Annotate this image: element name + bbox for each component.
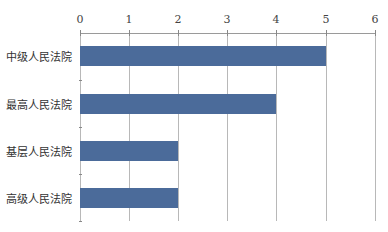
x-tick-label: 6 xyxy=(372,13,379,26)
gridline xyxy=(326,33,327,221)
y-axis-tick xyxy=(79,174,82,175)
x-axis-tick xyxy=(80,30,81,36)
x-axis-tick xyxy=(178,30,179,36)
x-tick-label: 1 xyxy=(126,13,133,26)
category-label: 高级人民法院 xyxy=(6,190,72,206)
y-axis-tick xyxy=(79,221,82,222)
x-axis-tick xyxy=(227,30,228,36)
bar xyxy=(80,141,178,161)
category-label: 最高人民法院 xyxy=(6,96,72,112)
y-axis-tick xyxy=(79,80,82,81)
category-label: 中级人民法院 xyxy=(6,48,72,64)
x-tick-label: 3 xyxy=(224,13,231,26)
x-tick-label: 4 xyxy=(273,13,280,26)
bar xyxy=(80,188,178,208)
x-axis-tick xyxy=(276,30,277,36)
x-tick-label: 2 xyxy=(175,13,182,26)
x-axis-tick xyxy=(129,30,130,36)
y-axis-tick xyxy=(79,127,82,128)
category-label: 基层人民法院 xyxy=(6,143,72,159)
x-axis-tick xyxy=(375,30,376,36)
x-axis-tick xyxy=(326,30,327,36)
bar-chart: 0123456中级人民法院最高人民法院基层人民法院高级人民法院 xyxy=(0,0,388,232)
bar xyxy=(80,94,276,114)
gridline xyxy=(375,33,376,221)
bar xyxy=(80,46,326,66)
x-tick-label: 5 xyxy=(323,13,330,26)
x-tick-label: 0 xyxy=(77,13,84,26)
